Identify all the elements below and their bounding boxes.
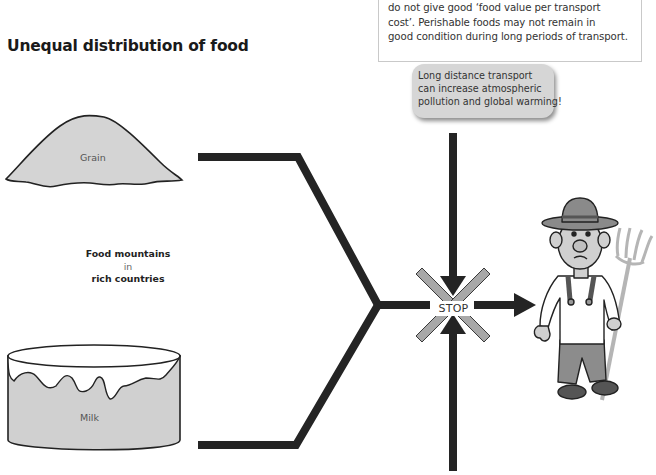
grain-label: Grain <box>80 152 106 163</box>
food-mountains-line3: rich countries <box>58 273 198 286</box>
distribution-diagram <box>0 0 656 475</box>
milk-tank <box>8 345 180 450</box>
callout-line: can increase atmospheric <box>418 82 554 95</box>
callout-line: Long distance transport <box>418 69 554 82</box>
farmer-illustration <box>534 198 652 400</box>
stop-sign: STOP <box>433 301 474 316</box>
milk-label: Milk <box>80 412 99 423</box>
distribution-paths <box>198 157 430 445</box>
food-mountains-line2: in <box>58 261 198 274</box>
pollution-callout: Long distance transport can increase atm… <box>412 64 554 118</box>
arrow-icon <box>474 293 536 317</box>
food-mountains-line1: Food mountains <box>58 248 198 261</box>
callout-line: pollution and global warming! <box>418 95 554 108</box>
food-mountains-label: Food mountains in rich countries <box>58 248 198 286</box>
